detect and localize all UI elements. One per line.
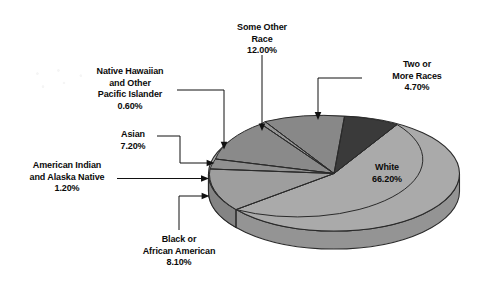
label-two-or-more-races-line1: Two or	[365, 59, 469, 71]
label-white-value: 66.20%	[357, 174, 417, 186]
label-white-line1: White	[357, 162, 417, 174]
label-american-indian-value: 1.20%	[18, 183, 116, 195]
label-some-other-race: Some Other Race 12.00%	[212, 22, 312, 57]
label-american-indian-line1: American Indian	[18, 160, 116, 172]
label-black-african-american-line1: Black or	[122, 234, 236, 246]
label-two-or-more-races-line2: More Races	[365, 71, 469, 83]
pie-chart-figure: Some Other Race 12.00% Two or More Races…	[0, 0, 489, 285]
label-native-hawaiian-line2: and Other	[84, 78, 176, 90]
label-native-hawaiian-value: 0.60%	[84, 101, 176, 113]
leader-some-other-race	[259, 55, 266, 131]
label-white: White 66.20%	[357, 162, 417, 185]
label-some-other-race-value: 12.00%	[212, 45, 312, 57]
label-asian: Asian 7.20%	[110, 129, 156, 152]
leader-asian	[157, 136, 215, 166]
label-some-other-race-line1: Some Other	[212, 22, 312, 34]
label-black-african-american-line2: African American	[122, 246, 236, 258]
label-black-african-american-value: 8.10%	[122, 257, 236, 269]
label-native-hawaiian-line3: Pacific Islander	[84, 89, 176, 101]
leader-native-hawaiian	[177, 90, 227, 150]
label-two-or-more-races-value: 4.70%	[365, 82, 469, 94]
label-black-african-american: Black or African American 8.10%	[122, 234, 236, 269]
pie-top-face	[209, 115, 460, 231]
leader-black-african-american	[179, 193, 210, 230]
label-asian-line1: Asian	[110, 129, 156, 141]
label-two-or-more-races: Two or More Races 4.70%	[365, 59, 469, 94]
label-native-hawaiian-line1: Native Hawaiian	[84, 66, 176, 78]
leader-american-indian	[117, 175, 209, 182]
label-native-hawaiian: Native Hawaiian and Other Pacific Island…	[84, 66, 176, 112]
label-asian-value: 7.20%	[110, 141, 156, 153]
label-american-indian-line2: and Alaska Native	[18, 172, 116, 184]
label-american-indian: American Indian and Alaska Native 1.20%	[18, 160, 116, 195]
label-some-other-race-line2: Race	[212, 34, 312, 46]
leader-two-or-more-races	[315, 78, 362, 120]
